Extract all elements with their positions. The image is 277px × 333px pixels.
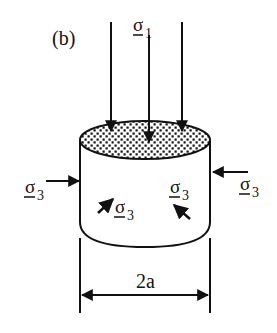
diagram-svg: (b) σ 1 σ 3 σ 3 σ 3 σ 3 2a bbox=[0, 0, 277, 333]
svg-text:1: 1 bbox=[145, 26, 152, 41]
svg-text:3: 3 bbox=[127, 208, 134, 223]
svg-text:3: 3 bbox=[37, 188, 44, 203]
triaxial-specimen-diagram: (b) σ 1 σ 3 σ 3 σ 3 σ 3 2a bbox=[0, 0, 277, 333]
sigma3-right-label: σ 3 bbox=[239, 173, 259, 200]
sigma3-left-label: σ 3 bbox=[24, 176, 44, 203]
top-face-granular bbox=[80, 121, 210, 159]
dimension-label: 2a bbox=[136, 270, 155, 292]
svg-text:3: 3 bbox=[252, 185, 259, 200]
sigma1-label: σ 1 bbox=[133, 14, 152, 41]
svg-text:σ: σ bbox=[133, 14, 143, 35]
svg-text:σ: σ bbox=[240, 173, 250, 194]
svg-text:3: 3 bbox=[182, 188, 189, 203]
cylinder-specimen bbox=[80, 121, 210, 247]
svg-text:σ: σ bbox=[25, 176, 35, 197]
svg-text:σ: σ bbox=[115, 196, 125, 217]
svg-text:σ: σ bbox=[170, 176, 180, 197]
panel-label: (b) bbox=[52, 27, 75, 50]
